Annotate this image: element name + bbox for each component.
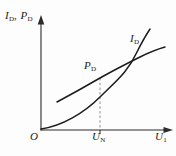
plot-canvas — [0, 0, 176, 156]
origin-label: O — [30, 131, 38, 142]
curve-label-pd: PD — [84, 60, 96, 71]
y-axis-label: ID, PD — [5, 10, 33, 21]
x-axis-label-u: U — [155, 130, 163, 142]
curve-label-id-subscript: D — [134, 38, 139, 46]
y-axis-label-p-subscript: D — [27, 15, 32, 23]
y-axis-label-separator: , — [14, 9, 18, 21]
x-axis-label: U1 — [155, 131, 167, 142]
curve-label-pd-subscript: D — [91, 65, 96, 73]
curve-label-pd-letter: P — [84, 59, 91, 71]
x-tick-label-un: UN — [92, 131, 105, 142]
x-axis-label-subscript: 1 — [163, 136, 167, 144]
power-curve-pd — [57, 47, 165, 102]
figure-container: ID, PD U1 O UN ID PD — [0, 0, 176, 156]
x-tick-label-subscript: N — [100, 136, 105, 144]
x-tick-label-u: U — [92, 130, 100, 142]
y-axis-arrow-icon — [38, 15, 45, 25]
curve-label-id: ID — [130, 33, 139, 44]
y-axis-label-i-subscript: D — [9, 15, 14, 23]
